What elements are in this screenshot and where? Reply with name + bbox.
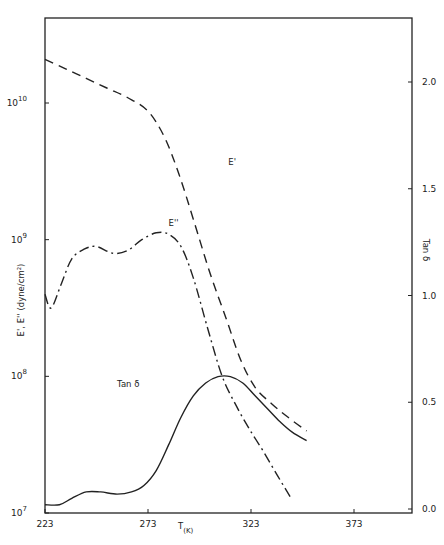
curve-label: E'' <box>169 218 179 228</box>
y-left-tick-label: 107 <box>11 505 27 518</box>
y-axis-right-label: Tan δ <box>421 238 431 261</box>
y-left-tick-label: 1010 <box>7 95 27 108</box>
curve-label: Tan δ <box>116 379 139 389</box>
labels: E'E''Tan δ <box>116 157 236 390</box>
y-right-tick-label: 2.0 <box>422 77 437 87</box>
x-tick-label: 373 <box>345 519 362 529</box>
y-right-tick-label: 0.5 <box>422 397 436 407</box>
x-tick-label: 273 <box>139 519 156 529</box>
series-e-curve <box>45 59 307 431</box>
curves <box>45 59 307 505</box>
axis-ticks: 223273323373T(K)10710810910100.00.51.01.… <box>7 77 437 535</box>
x-tick-label: 223 <box>36 519 53 529</box>
x-axis-label: T(K) <box>177 521 194 535</box>
y-right-tick-label: 0.0 <box>422 504 437 514</box>
series-tan-curve <box>45 376 307 505</box>
plot-frame <box>45 18 412 513</box>
curve-label: E' <box>228 157 236 167</box>
series-e-curve <box>45 232 290 496</box>
y-axis-left-label: E', E'' (dyne/cm²) <box>16 264 26 337</box>
y-left-tick-label: 109 <box>11 232 27 245</box>
y-left-tick-label: 108 <box>11 368 27 381</box>
x-tick-label: 323 <box>242 519 259 529</box>
y-right-tick-label: 1.5 <box>422 184 436 194</box>
y-right-tick-label: 1.0 <box>422 291 437 301</box>
chart: 223273323373T(K)10710810910100.00.51.01.… <box>0 0 444 545</box>
